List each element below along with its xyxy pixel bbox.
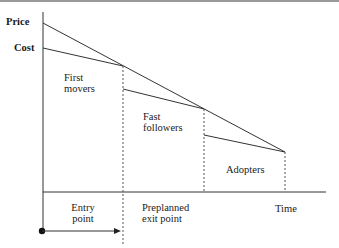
- cost-line-fast-followers: [123, 89, 204, 109]
- price-label: Price: [6, 16, 29, 27]
- first-movers-line2: movers: [64, 83, 95, 94]
- fast-followers-line1: Fast: [143, 111, 183, 122]
- first-movers-label: First movers: [64, 72, 95, 94]
- entry-point-line2: point: [60, 213, 106, 224]
- adopters-label: Adopters: [226, 164, 265, 175]
- entry-point-label: Entry point: [60, 202, 106, 224]
- entry-point-line1: Entry: [60, 202, 106, 213]
- first-movers-line1: First: [64, 72, 95, 83]
- cost-line-first-movers: [43, 48, 123, 66]
- cost-line-adopters: [204, 135, 285, 152]
- preplanned-exit-point-label: Preplanned exit point: [142, 202, 189, 224]
- exit-point-line1: Preplanned: [142, 202, 189, 213]
- exit-point-line2: exit point: [142, 213, 189, 224]
- time-label: Time: [275, 203, 297, 214]
- cost-label: Cost: [14, 42, 34, 53]
- fast-followers-line2: followers: [143, 122, 183, 133]
- arrowhead-icon: [114, 228, 121, 234]
- fast-followers-label: Fast followers: [143, 111, 183, 133]
